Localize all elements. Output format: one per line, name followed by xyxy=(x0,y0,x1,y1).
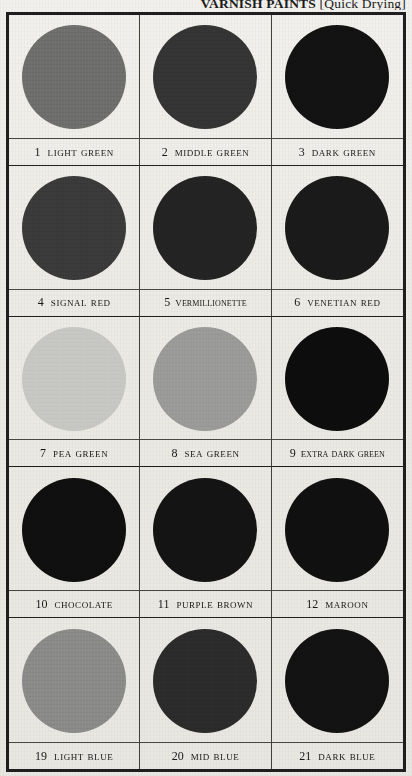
swatch-cell[interactable]: 11Purple Brown xyxy=(140,467,271,618)
swatch-area xyxy=(140,618,270,742)
swatch-label: 19Light Blue xyxy=(35,750,113,763)
swatch-area xyxy=(272,166,403,289)
colour-swatch[interactable] xyxy=(153,629,257,733)
colour-swatch[interactable] xyxy=(153,327,257,431)
page-title-main: VARNISH PAINTS xyxy=(201,0,316,10)
swatch-name: Light Blue xyxy=(54,750,113,763)
swatch-cell[interactable]: 7Pea Green xyxy=(9,317,140,468)
swatch-number: 8 xyxy=(171,447,177,459)
swatch-area xyxy=(140,15,270,138)
swatch-label: 1Light Green xyxy=(35,146,114,159)
page-title-bracket: [Quick Drying] xyxy=(320,0,406,10)
swatch-label-band: 19Light Blue xyxy=(9,742,139,769)
swatch-label: 5Vermillionette xyxy=(164,296,246,309)
swatch-label-band: 10Chocolate xyxy=(9,590,139,617)
swatch-number: 11 xyxy=(158,598,170,610)
swatch-cell[interactable]: 2Middle Green xyxy=(140,15,271,166)
colour-swatch[interactable] xyxy=(285,176,389,280)
swatch-name: Sea Green xyxy=(184,447,239,460)
colour-swatch[interactable] xyxy=(153,176,257,280)
swatch-area xyxy=(272,467,403,590)
swatch-number: 10 xyxy=(35,598,47,610)
swatch-name: Extra Dark Green xyxy=(301,447,385,460)
swatch-label-band: 1Light Green xyxy=(9,138,139,165)
swatch-name: Venetian Red xyxy=(307,296,380,309)
colour-swatch[interactable] xyxy=(285,25,389,129)
colour-swatch[interactable] xyxy=(153,25,257,129)
swatch-label-band: 4Signal Red xyxy=(9,289,139,316)
swatch-area xyxy=(140,166,270,289)
swatch-number: 9 xyxy=(290,447,296,459)
swatch-cell[interactable]: 20Mid Blue xyxy=(140,618,271,769)
swatch-area xyxy=(9,317,139,440)
swatch-number: 3 xyxy=(299,146,305,158)
swatch-label: 4Signal Red xyxy=(38,296,111,309)
colour-swatch[interactable] xyxy=(153,478,257,582)
swatch-label-band: 2Middle Green xyxy=(140,138,270,165)
swatch-name: Middle Green xyxy=(175,146,250,159)
swatch-label: 10Chocolate xyxy=(35,598,112,611)
swatch-cell[interactable]: 9Extra Dark Green xyxy=(272,317,403,468)
colour-swatch[interactable] xyxy=(285,629,389,733)
swatch-label-band: 6Venetian Red xyxy=(272,289,403,316)
swatch-label: 2Middle Green xyxy=(162,146,250,159)
swatch-label: 7Pea Green xyxy=(40,447,108,460)
swatch-number: 5 xyxy=(164,296,170,308)
swatch-cell[interactable]: 12Maroon xyxy=(272,467,403,618)
swatch-label: 9Extra Dark Green xyxy=(290,447,385,460)
swatch-name: Purple Brown xyxy=(176,598,253,611)
swatch-label-band: 8Sea Green xyxy=(140,439,270,466)
swatch-area xyxy=(140,317,270,440)
swatch-cell[interactable]: 21Dark Blue xyxy=(272,618,403,769)
swatch-cell[interactable]: 19Light Blue xyxy=(9,618,140,769)
swatch-label-band: 12Maroon xyxy=(272,590,403,617)
swatch-name: Chocolate xyxy=(54,598,112,611)
colour-swatch[interactable] xyxy=(22,327,126,431)
swatch-number: 20 xyxy=(172,750,184,762)
swatch-label: 20Mid Blue xyxy=(172,750,240,763)
swatch-name: Dark Blue xyxy=(318,750,375,763)
swatch-area xyxy=(9,166,139,289)
swatch-number: 12 xyxy=(306,598,318,610)
colour-chart-frame: 1Light Green2Middle Green3Dark Green4Sig… xyxy=(6,12,406,772)
swatch-area xyxy=(9,15,139,138)
swatch-name: Dark Green xyxy=(312,146,376,159)
colour-swatch[interactable] xyxy=(22,176,126,280)
swatch-label: 3Dark Green xyxy=(299,146,376,159)
swatch-label-band: 5Vermillionette xyxy=(140,289,270,316)
page-title: VARNISH PAINTS [Quick Drying] xyxy=(0,0,412,10)
swatch-label: 12Maroon xyxy=(306,598,368,611)
swatch-cell[interactable]: 5Vermillionette xyxy=(140,166,271,317)
swatch-name: Signal Red xyxy=(51,296,111,309)
swatch-number: 6 xyxy=(294,296,300,308)
colour-swatch[interactable] xyxy=(22,478,126,582)
colour-swatch[interactable] xyxy=(22,629,126,733)
swatch-cell[interactable]: 3Dark Green xyxy=(272,15,403,166)
colour-swatch[interactable] xyxy=(22,25,126,129)
swatch-name: Mid Blue xyxy=(191,750,240,763)
swatch-grid: 1Light Green2Middle Green3Dark Green4Sig… xyxy=(9,15,403,769)
swatch-cell[interactable]: 8Sea Green xyxy=(140,317,271,468)
swatch-cell[interactable]: 10Chocolate xyxy=(9,467,140,618)
colour-swatch[interactable] xyxy=(285,478,389,582)
swatch-label: 8Sea Green xyxy=(171,447,239,460)
swatch-label: 11Purple Brown xyxy=(158,598,253,611)
swatch-cell[interactable]: 6Venetian Red xyxy=(272,166,403,317)
swatch-number: 1 xyxy=(35,146,41,158)
colour-swatch[interactable] xyxy=(285,327,389,431)
swatch-number: 19 xyxy=(35,750,47,762)
swatch-cell[interactable]: 4Signal Red xyxy=(9,166,140,317)
swatch-label-band: 9Extra Dark Green xyxy=(272,439,403,466)
swatch-number: 7 xyxy=(40,447,46,459)
swatch-area xyxy=(9,618,139,742)
swatch-number: 2 xyxy=(162,146,168,158)
swatch-number: 21 xyxy=(299,750,311,762)
swatch-label: 21Dark Blue xyxy=(299,750,375,763)
swatch-label-band: 20Mid Blue xyxy=(140,742,270,769)
swatch-number: 4 xyxy=(38,296,44,308)
swatch-name: Light Green xyxy=(48,146,114,159)
swatch-cell[interactable]: 1Light Green xyxy=(9,15,140,166)
swatch-area xyxy=(272,618,403,742)
swatch-area xyxy=(9,467,139,590)
swatch-area xyxy=(140,467,270,590)
